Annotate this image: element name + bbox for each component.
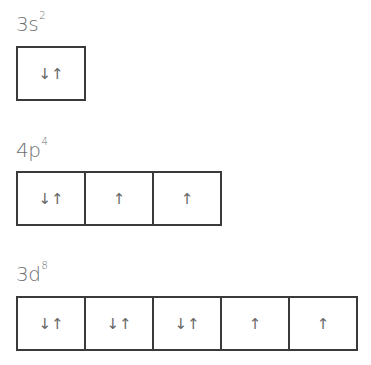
orbital-name: 3s bbox=[16, 12, 38, 36]
orbital-row-3s: ↓↑ bbox=[16, 46, 86, 101]
orbital-box: ↑ bbox=[288, 296, 358, 351]
orbital-row-3d: ↓↑ ↓↑ ↓↑ ↑ ↑ bbox=[16, 296, 358, 351]
orbital-box: ↓↑ bbox=[16, 46, 86, 101]
orbital-box: ↓↑ bbox=[16, 171, 86, 226]
orbital-row-4p: ↓↑ ↑ ↑ bbox=[16, 171, 222, 226]
orbital-box: ↑ bbox=[152, 171, 222, 226]
orbital-box: ↓↑ bbox=[152, 296, 222, 351]
orbital-box: ↑ bbox=[220, 296, 290, 351]
orbital-label-3s: 3s2 bbox=[16, 12, 45, 36]
orbital-name: 3d bbox=[16, 262, 40, 286]
electron-count: 4 bbox=[41, 136, 47, 147]
orbital-name: 4p bbox=[16, 138, 40, 162]
orbital-box: ↓↑ bbox=[16, 296, 86, 351]
orbital-label-4p: 4p4 bbox=[16, 138, 47, 162]
electron-count: 8 bbox=[41, 260, 47, 271]
electron-count: 2 bbox=[39, 10, 45, 21]
orbital-box: ↓↑ bbox=[84, 296, 154, 351]
orbital-label-3d: 3d8 bbox=[16, 262, 47, 286]
orbital-box: ↑ bbox=[84, 171, 154, 226]
